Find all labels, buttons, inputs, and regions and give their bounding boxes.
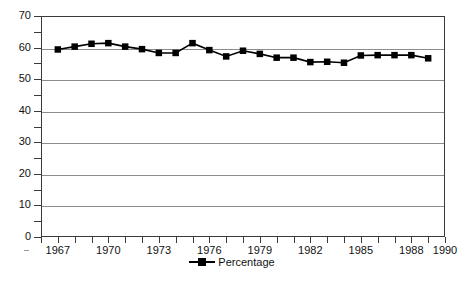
x-tick-1985 [361,237,362,243]
x-tick-1966 [41,237,42,243]
gridline-30 [42,143,444,144]
filled-square-marker-icon [189,257,215,267]
y-tick-minor-25 [34,158,41,159]
y-tick-minor-55 [34,63,41,64]
plot-area [41,16,445,237]
x-tick-1973 [159,237,160,243]
gridline-40 [42,112,444,113]
gridline-20 [42,175,444,176]
gridline-50 [42,80,444,81]
x-tick-1976 [209,237,210,243]
x-tick-1979 [260,237,261,243]
y-tick-label-10: 10 [19,199,31,210]
y-tick-label-20: 20 [19,168,31,179]
y-tick-minor-45 [34,95,41,96]
y-tick-minor-35 [34,127,41,128]
x-tick-1989 [428,237,429,243]
x-tick-1983 [327,237,328,243]
x-tick-1990 [445,237,446,243]
line-chart: 010203040506070 196719701973197619791982… [0,0,464,281]
y-tick-label-50: 50 [19,73,31,84]
y-tick-minor-5 [34,221,41,222]
x-tick-1974 [176,237,177,243]
x-tick-1988 [411,237,412,243]
x-tick-1981 [294,237,295,243]
x-tick-1967 [58,237,59,243]
y-tick-60 [34,48,41,49]
x-tick-1984 [344,237,345,243]
x-tick-1971 [125,237,126,243]
legend-entry-percentage: Percentage [189,255,274,269]
axis-artifact [24,250,29,251]
y-tick-label-0: 0 [25,231,31,242]
x-tick-1969 [92,237,93,243]
x-tick-1978 [243,237,244,243]
y-tick-20 [34,174,41,175]
legend-label: Percentage [218,256,274,268]
x-tick-1987 [395,237,396,243]
x-tick-1986 [378,237,379,243]
y-tick-label-70: 70 [19,10,31,21]
y-tick-minor-65 [34,32,41,33]
x-tick-1982 [310,237,311,243]
y-tick-40 [34,111,41,112]
y-axis: 010203040506070 [0,0,38,281]
y-tick-label-30: 30 [19,136,31,147]
x-tick-1968 [75,237,76,243]
x-tick-1977 [226,237,227,243]
x-tick-1975 [193,237,194,243]
y-tick-label-60: 60 [19,42,31,53]
x-axis-ticks [41,237,445,244]
y-tick-70 [34,16,41,17]
x-tick-1970 [108,237,109,243]
gridline-10 [42,206,444,207]
y-tick-30 [34,142,41,143]
chart-legend: Percentage [0,255,464,269]
gridline-60 [42,49,444,50]
y-tick-10 [34,205,41,206]
y-tick-label-40: 40 [19,105,31,116]
x-tick-1972 [142,237,143,243]
y-tick-50 [34,79,41,80]
y-tick-minor-15 [34,190,41,191]
x-tick-1980 [277,237,278,243]
y-tick-0 [34,237,41,238]
